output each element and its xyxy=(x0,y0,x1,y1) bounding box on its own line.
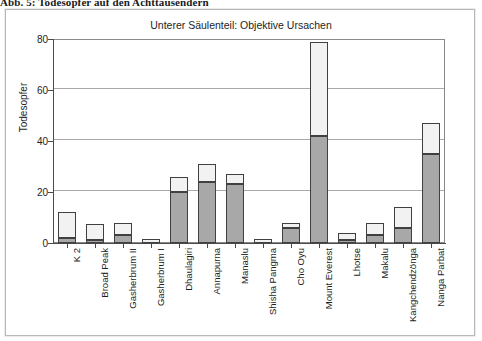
bar-segment-lower[interactable] xyxy=(114,235,132,243)
x-axis-labels: K 2Broad PeakGasherbrum IIGasherbrum IDh… xyxy=(53,248,445,334)
x-tick-mark xyxy=(123,244,124,248)
y-tick-label-20: 20 xyxy=(8,187,48,198)
bar-group[interactable] xyxy=(170,177,188,243)
bar-segment-upper[interactable] xyxy=(394,207,412,227)
x-axis-label: Lhotse xyxy=(351,248,362,277)
bar-segment-lower[interactable] xyxy=(394,228,412,243)
bar-segment-upper[interactable] xyxy=(226,174,244,184)
bars-layer xyxy=(53,39,445,243)
bar-segment-lower[interactable] xyxy=(310,136,328,243)
x-axis-label: Dhaulagiri xyxy=(183,248,194,291)
x-tick-mark xyxy=(179,244,180,248)
y-axis-title: Todesopfer xyxy=(18,53,29,163)
x-axis-label: Broad Peak xyxy=(99,248,110,298)
x-axis-label: Shisha Pangma xyxy=(267,248,278,315)
bar-segment-lower[interactable] xyxy=(198,182,216,243)
x-tick-mark xyxy=(67,244,68,248)
x-tick-mark xyxy=(291,244,292,248)
y-tick-label-80: 80 xyxy=(8,34,48,45)
bar-segment-upper[interactable] xyxy=(366,223,384,236)
bar-segment-upper[interactable] xyxy=(310,42,328,136)
x-tick-mark xyxy=(375,244,376,248)
x-tick-mark xyxy=(235,244,236,248)
bar-group[interactable] xyxy=(394,207,412,243)
bar-segment-lower[interactable] xyxy=(226,184,244,243)
bar-group[interactable] xyxy=(114,223,132,243)
x-tick-mark xyxy=(319,244,320,248)
bar-segment-upper[interactable] xyxy=(422,123,440,154)
bar-segment-upper[interactable] xyxy=(114,223,132,236)
bar-segment-lower[interactable] xyxy=(366,235,384,243)
x-tick-mark xyxy=(151,244,152,248)
x-axis-label: Gasherbrum II xyxy=(127,248,138,309)
x-axis-label: K 2 xyxy=(71,248,82,262)
bar-group[interactable] xyxy=(366,223,384,243)
x-axis-label: Makalu xyxy=(379,248,390,279)
x-axis-label: Mount Everest xyxy=(323,248,334,309)
bar-segment-lower[interactable] xyxy=(422,154,440,243)
bar-segment-upper[interactable] xyxy=(198,164,216,182)
bar-group[interactable] xyxy=(282,223,300,243)
bar-group[interactable] xyxy=(198,164,216,243)
x-tick-mark xyxy=(263,244,264,248)
y-tick-label-0: 0 xyxy=(8,238,48,249)
bar-group[interactable] xyxy=(310,42,328,243)
x-axis-label: Annapurna xyxy=(211,248,222,294)
x-axis-line xyxy=(53,243,446,244)
x-tick-mark xyxy=(403,244,404,248)
bar-segment-upper[interactable] xyxy=(58,212,76,238)
bar-group[interactable] xyxy=(86,224,104,243)
x-tick-mark xyxy=(347,244,348,248)
bar-segment-upper[interactable] xyxy=(86,224,104,241)
x-tick-mark xyxy=(207,244,208,248)
bar-segment-upper[interactable] xyxy=(338,233,356,241)
bar-segment-lower[interactable] xyxy=(282,228,300,243)
x-tick-mark xyxy=(95,244,96,248)
bar-group[interactable] xyxy=(58,212,76,243)
bar-segment-lower[interactable] xyxy=(170,192,188,243)
x-tick-mark xyxy=(431,244,432,248)
bar-group[interactable] xyxy=(226,174,244,243)
screenshot-root: Abb. 5: Todesopfer auf den Achttausender… xyxy=(0,0,482,341)
chart-figure-frame: Unterer Säulenteil: Objektive Ursachen 0… xyxy=(5,9,475,336)
x-axis-label: Manaslu xyxy=(239,248,250,284)
x-axis-label: Nanga Parbat xyxy=(435,248,446,307)
bar-segment-upper[interactable] xyxy=(170,177,188,192)
bar-group[interactable] xyxy=(422,123,440,243)
figure-caption: Abb. 5: Todesopfer auf den Achttausender… xyxy=(0,0,300,8)
x-axis-label: Kangchendzönga xyxy=(407,248,418,322)
x-axis-label: Cho Oyu xyxy=(295,248,306,286)
bar-group[interactable] xyxy=(338,233,356,243)
chart-title: Unterer Säulenteil: Objektive Ursachen xyxy=(6,19,476,31)
x-axis-label: Gasherbrum I xyxy=(155,248,166,306)
